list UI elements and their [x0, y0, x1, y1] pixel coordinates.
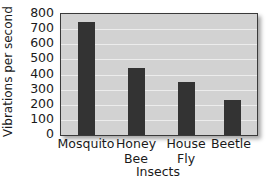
y-tick-label: 200: [22, 97, 54, 111]
y-tick-label: 800: [22, 6, 54, 20]
y-tick-label: 700: [22, 21, 54, 35]
y-axis-label: Vibrations per second: [1, 15, 17, 137]
y-tick-label: 0: [22, 127, 54, 141]
y-tick-label: 600: [22, 36, 54, 50]
y-tick-label: 300: [22, 82, 54, 96]
bar-mosquito: [78, 22, 95, 135]
bar-honey-bee: [128, 68, 145, 135]
y-tick-label: 500: [22, 51, 54, 65]
bar-house-fly: [178, 82, 195, 135]
y-tick-label: 100: [22, 112, 54, 126]
x-axis-label: Insects: [60, 164, 256, 179]
y-tick-label: 400: [22, 67, 54, 81]
bar-beetle: [224, 100, 241, 135]
plot-area: [60, 13, 258, 136]
x-tick-label: Beetle: [199, 136, 263, 151]
